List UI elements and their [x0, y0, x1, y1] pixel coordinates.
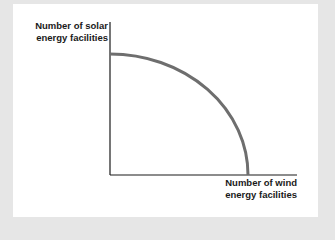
y-axis-label-line-1: Number of solar	[35, 20, 108, 32]
x-axis-label: Number of wind energy facilities	[225, 177, 297, 201]
ppf-curve	[110, 54, 248, 175]
y-axis-label: Number of solar energy facilities	[35, 20, 108, 44]
x-axis-label-line-1: Number of wind	[225, 177, 297, 189]
y-axis-label-line-2: energy facilities	[35, 32, 108, 44]
x-axis-label-line-2: energy facilities	[225, 189, 297, 201]
